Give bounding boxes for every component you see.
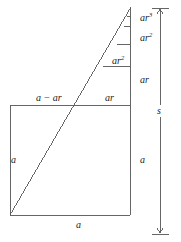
step-label-ar2-upper: ar2 xyxy=(140,33,152,43)
total-height-label: s xyxy=(155,105,163,117)
geometric-series-diagram: ar3 ar2 ar2 ar a − ar ar a a a s xyxy=(0,0,181,242)
diagram-canvas xyxy=(0,0,181,242)
step-label-ar3: ar3 xyxy=(140,13,152,23)
step-label-ar2-lower: ar2 xyxy=(112,56,124,66)
top-edge-right-label: ar xyxy=(105,93,114,103)
square-right-side-label: a xyxy=(140,155,145,165)
square-bottom-side-label: a xyxy=(76,220,81,230)
square-left-side-label: a xyxy=(11,155,16,165)
top-edge-left-label: a − ar xyxy=(36,93,62,103)
step-label-ar: ar xyxy=(140,75,149,85)
diagonal-hypotenuse xyxy=(10,7,131,215)
